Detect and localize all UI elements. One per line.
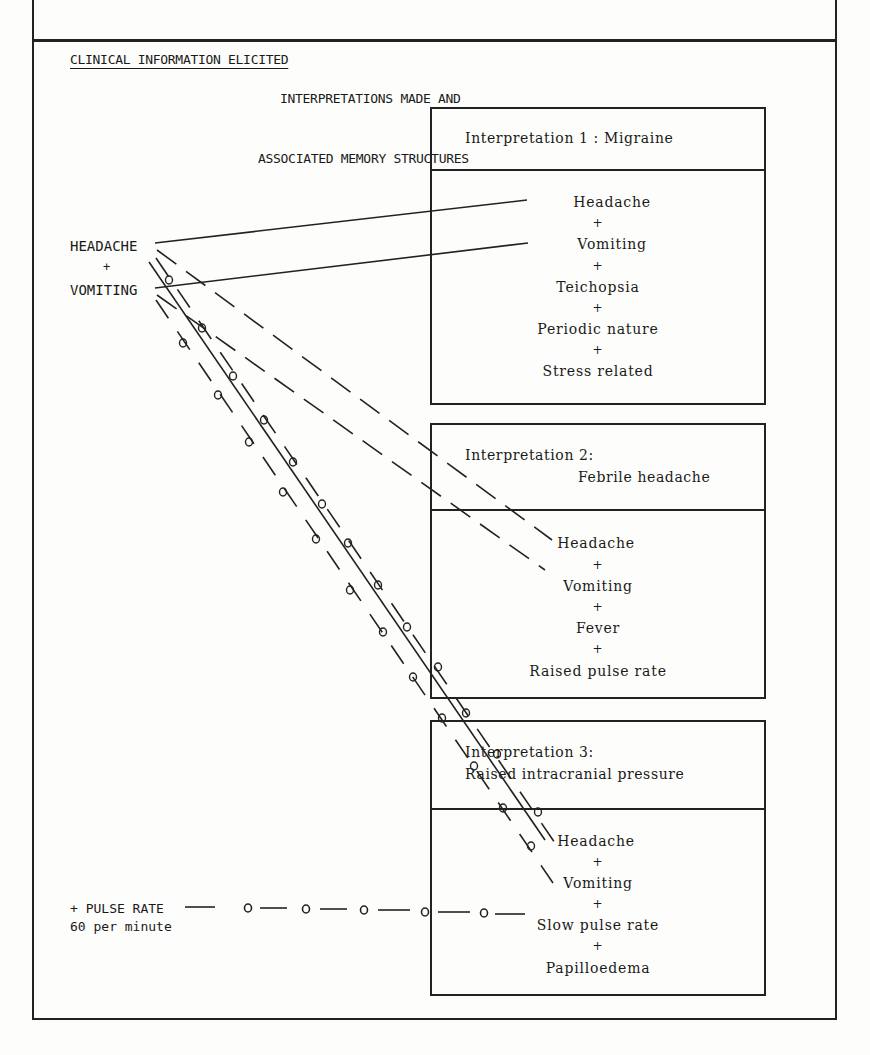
interp1-plus: + [432,257,764,276]
symptom-headache: HEADACHE [70,238,137,254]
interp1-feature-vomiting: Vomiting [432,235,764,254]
interp1-feature-teichopsia: Teichopsia [432,278,764,297]
interp2-feature-fever: Fever [432,619,764,638]
interp1-feature-stress-related: Stress related [432,362,764,381]
interpretation-2-box: Interpretation 2: Febrile headache Heada… [430,423,766,699]
interpretation-3-title-line1: Interpretation 3: [465,744,594,760]
interp2-feature-vomiting: Vomiting [432,577,764,596]
interp2-plus: + [432,598,764,617]
interpretations-heading-line1: INTERPRETATIONS MADE AND [258,89,658,109]
interp1-plus: + [432,341,764,360]
interp2-plus: + [432,556,764,575]
interpretation-2-header: Interpretation 2: Febrile headache [432,425,764,511]
interp3-feature-slow-pulse-rate: Slow pulse rate [432,916,764,935]
interp2-feature-raised-pulse-rate: Raised pulse rate [432,662,764,681]
symptom-vomiting: VOMITING [70,282,137,298]
interp1-feature-headache: Headache [432,193,764,212]
interp3-plus: + [432,937,764,956]
symptom-plus: + [103,260,110,274]
interp2-feature-headache: Headache [432,534,764,553]
interp3-plus: + [432,853,764,872]
finding-pulse-value: 60 per minute [70,919,172,934]
interp3-feature-papilloedema: Papilloedema [432,959,764,978]
interpretation-1-box: Interpretation 1 : Migraine Headache + V… [430,107,766,405]
interpretation-1-title: Interpretation 1 : Migraine [465,130,673,146]
frame-top-divider [32,39,837,42]
interpretation-2-title-line2: Febrile headache [578,469,710,485]
interp3-feature-headache: Headache [432,832,764,851]
interpretation-3-header: Interpretation 3: Raised intracranial pr… [432,722,764,810]
interpretation-3-box: Interpretation 3: Raised intracranial pr… [430,720,766,996]
interpretation-3-title-line2: Raised intracranial pressure [465,766,684,782]
interp1-plus: + [432,214,764,233]
clinical-info-heading: CLINICAL INFORMATION ELICITED [70,52,288,68]
interp2-plus: + [432,640,764,659]
interp1-plus: + [432,299,764,318]
finding-pulse-rate: + PULSE RATE [70,901,164,916]
interpretation-1-header: Interpretation 1 : Migraine [432,109,764,171]
interpretation-2-title-line1: Interpretation 2: [465,447,594,463]
interp3-feature-vomiting: Vomiting [432,874,764,893]
interp3-plus: + [432,895,764,914]
interp1-feature-periodic-nature: Periodic nature [432,320,764,339]
